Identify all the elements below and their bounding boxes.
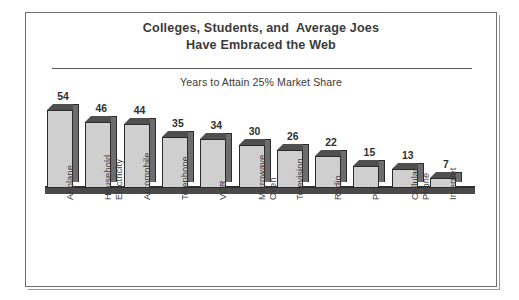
- category-label: Household Electricity: [103, 122, 124, 200]
- chart-subtitle: Years to Attain 25% Market Share: [25, 76, 497, 88]
- bar-value-label: 15: [349, 147, 389, 158]
- category-label: Internet: [448, 122, 459, 200]
- bar-value-label: 26: [273, 131, 313, 142]
- bar-value-label: 54: [43, 91, 83, 102]
- bar-value-label: 34: [196, 120, 236, 131]
- title-divider: [52, 68, 472, 69]
- category-label: Airplane: [65, 122, 76, 200]
- bar-value-label: 22: [311, 137, 351, 148]
- bar-value-label: 46: [81, 103, 121, 114]
- bar-value-label: 35: [158, 118, 198, 129]
- category-label: PC: [371, 122, 382, 200]
- chart-title-line-1: Colleges, Students, and Average Joes: [25, 20, 497, 37]
- category-label: Automobile: [142, 122, 153, 200]
- chart-title: Colleges, Students, and Average Joes Hav…: [25, 20, 497, 53]
- bar-value-label: 44: [120, 105, 160, 116]
- chart-title-line-2: Have Embraced the Web: [25, 37, 497, 54]
- chart-figure: Colleges, Students, and Average Joes Hav…: [0, 0, 519, 300]
- category-label: Radio: [333, 122, 344, 200]
- category-label: VCR: [218, 122, 229, 200]
- category-label: Cellular Phone: [410, 122, 431, 200]
- category-label: Microwave Oven: [257, 122, 278, 200]
- bar-value-label: 7: [426, 159, 466, 170]
- category-label: Television: [295, 122, 306, 200]
- category-label: Telephone: [180, 122, 191, 200]
